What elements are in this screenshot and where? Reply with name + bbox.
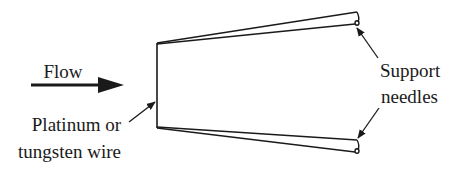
- needle-pointer-bottom-arrow-icon: [358, 108, 379, 138]
- support-needle-top: [157, 12, 359, 44]
- needle-pointer-top-arrow-icon: [357, 28, 378, 58]
- support-needle-bottom: [157, 127, 359, 153]
- wire-pointer-arrow-icon: [129, 102, 155, 122]
- needles-label-line2: needles: [381, 86, 438, 107]
- needles-label-line1: Support: [380, 60, 441, 81]
- wire-label-line2: tungsten wire: [18, 141, 121, 162]
- hot-wire-probe-diagram: Flow Platinum or tungsten wire Support n…: [0, 0, 451, 183]
- flow-label: Flow: [43, 61, 82, 82]
- wire-label-line1: Platinum or: [32, 114, 122, 135]
